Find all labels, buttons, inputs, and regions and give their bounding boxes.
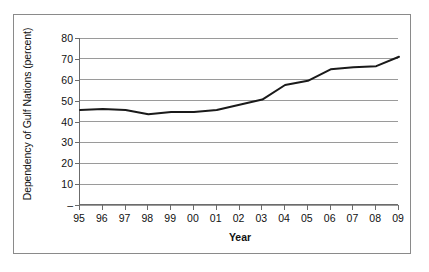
x-tick-mark	[216, 205, 217, 210]
x-tick-mark	[125, 205, 126, 210]
x-tick-mark	[330, 205, 331, 210]
y-tick-label: 50	[47, 96, 73, 107]
x-axis-tick-marks	[79, 205, 398, 211]
y-tick-label: 40	[47, 117, 73, 128]
x-axis-tick-labels: 959697989900010203040506070809	[79, 213, 398, 227]
y-axis-tick-labels: –1020304050607080	[45, 38, 73, 205]
x-tick-mark	[398, 205, 399, 210]
x-tick-mark	[102, 205, 103, 210]
data-series-line	[80, 38, 399, 205]
x-tick-mark	[239, 205, 240, 210]
y-tick-label: 60	[47, 75, 73, 86]
y-tick-label: 30	[47, 137, 73, 148]
x-tick-mark	[261, 205, 262, 210]
x-tick-mark	[284, 205, 285, 210]
x-tick-label: 09	[385, 213, 411, 224]
y-tick-label: –	[47, 200, 73, 211]
x-tick-mark	[375, 205, 376, 210]
x-axis-title: Year	[80, 231, 400, 243]
x-tick-mark	[170, 205, 171, 210]
y-tick-label: 70	[47, 54, 73, 65]
series-polyline	[80, 57, 399, 114]
x-tick-mark	[352, 205, 353, 210]
y-tick-label: 20	[47, 158, 73, 169]
x-tick-mark	[147, 205, 148, 210]
y-tick-label: 10	[47, 179, 73, 190]
x-tick-mark	[79, 205, 80, 210]
y-axis-title: Dependency of Gulf Nations (percent)	[21, 24, 33, 204]
y-tick-label: 80	[47, 33, 73, 44]
chart-figure: Dependency of Gulf Nations (percent) –10…	[0, 0, 429, 272]
x-tick-mark	[307, 205, 308, 210]
plot-area	[79, 38, 398, 205]
x-tick-mark	[193, 205, 194, 210]
